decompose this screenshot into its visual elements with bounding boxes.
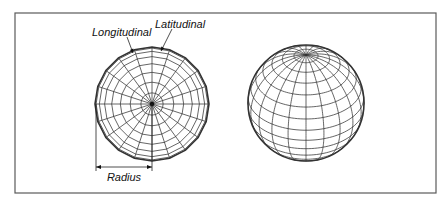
meridian-line [272, 55, 306, 157]
meridian-line [306, 55, 364, 105]
perspective-sphere [248, 45, 364, 161]
figure-frame [15, 13, 436, 193]
meridian-line [259, 55, 306, 149]
meridian-line [288, 55, 306, 160]
meridian-line [306, 55, 324, 160]
radius-dimension [96, 104, 152, 171]
sphere-mesh-diagram: Longitudinal Latitudinal Radius [0, 0, 447, 201]
arrowhead-left-icon [96, 165, 101, 169]
meridian-line [306, 55, 353, 149]
latitudinal-label: Latitudinal [155, 18, 206, 30]
arrowhead-right-icon [147, 165, 152, 169]
radius-label: Radius [107, 171, 142, 183]
parallel-line [251, 82, 306, 119]
meridian-line [248, 55, 306, 105]
longitudinal-label: Longitudinal [92, 26, 152, 38]
meridian-line [306, 55, 340, 157]
parallel-line [306, 82, 361, 119]
